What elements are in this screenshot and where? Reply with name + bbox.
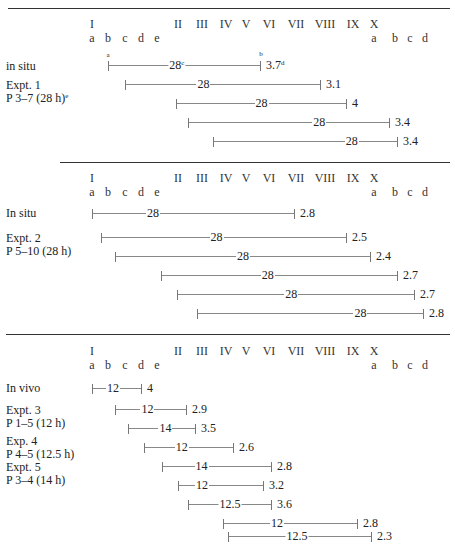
row-label: In vivo	[6, 382, 40, 395]
section-divider	[8, 8, 450, 9]
end-value: 2.7	[420, 288, 435, 301]
duration-bar: 123.2	[178, 485, 264, 486]
column-header-letter: a	[89, 186, 94, 199]
column-header-letter: b	[105, 32, 111, 45]
footnote-mark: d	[281, 59, 285, 67]
duration-value: 14	[158, 422, 172, 435]
duration-value: 28	[261, 269, 275, 282]
column-header-letter: e	[154, 186, 159, 199]
column-header-roman: VII	[288, 345, 305, 358]
duration-bar: 282.7	[161, 275, 398, 276]
footnote-mark: c	[181, 59, 184, 67]
column-header-roman: IX	[347, 345, 360, 358]
end-value: 3.6	[277, 498, 292, 511]
end-value: 2.8	[429, 307, 444, 320]
row-label: in situ	[6, 60, 36, 73]
column-header-letter: d	[138, 186, 144, 199]
column-header-roman: II	[174, 172, 182, 185]
column-header-roman: VIII	[315, 172, 336, 185]
column-header-roman: X	[370, 172, 379, 185]
column-header-letter: c	[407, 32, 412, 45]
row-label: P 3–7 (28 h)e	[6, 92, 68, 105]
row-label: In situ	[6, 207, 36, 220]
duration-bar: 124	[92, 388, 142, 389]
footnote-mark-start: a	[106, 52, 109, 59]
duration-bar: 28c3.7d	[108, 65, 261, 66]
column-header-letter: a	[89, 32, 94, 45]
column-header-roman: VII	[288, 172, 305, 185]
duration-bar: 12.53.6	[188, 504, 272, 505]
duration-bar: 284	[176, 103, 347, 104]
column-header-letter: a	[371, 186, 376, 199]
duration-value: 14	[195, 460, 209, 473]
column-header-letter: e	[154, 32, 159, 45]
column-header-roman: I	[90, 345, 94, 358]
row-label: P 3–4 (14 h)	[6, 474, 65, 487]
column-header-roman: IX	[347, 18, 360, 31]
duration-bar: 283.1	[125, 84, 321, 85]
column-header-letter: d	[138, 32, 144, 45]
duration-value: 28	[210, 231, 224, 244]
column-header-roman: II	[174, 18, 182, 31]
column-header-letter: c	[122, 32, 127, 45]
column-header-letter: b	[392, 32, 398, 45]
column-header-letter: d	[422, 186, 428, 199]
duration-value: 28	[345, 135, 359, 148]
column-header-roman: VI	[263, 172, 276, 185]
column-header-roman: V	[242, 345, 251, 358]
column-header-roman: VIII	[315, 345, 336, 358]
end-value: 2.6	[239, 441, 254, 454]
duration-value: 12	[140, 403, 154, 416]
duration-bar: 142.8	[162, 466, 272, 467]
duration-value: 28	[284, 288, 298, 301]
column-header-letter: b	[105, 359, 111, 372]
column-header-roman: II	[174, 345, 182, 358]
column-header-roman: IV	[220, 18, 233, 31]
column-header-roman: VI	[263, 345, 276, 358]
end-value: 3.4	[403, 135, 418, 148]
duration-value: 12	[195, 479, 209, 492]
end-value: 2.8	[300, 207, 315, 220]
end-value: 3.5	[201, 422, 216, 435]
column-header-letter: d	[422, 32, 428, 45]
duration-bar: 282.4	[115, 256, 371, 257]
duration-value: 12	[270, 517, 284, 530]
duration-value: 28	[196, 78, 210, 91]
column-header-roman: V	[242, 18, 251, 31]
end-value: 4	[147, 382, 153, 395]
column-header-letter: a	[371, 32, 376, 45]
duration-bar: 282.8	[197, 313, 424, 314]
end-value: 3.2	[269, 479, 284, 492]
duration-value: 28	[236, 250, 250, 263]
duration-value: 12.5	[219, 498, 242, 511]
duration-bar: 282.5	[101, 237, 347, 238]
column-header-letter: c	[407, 186, 412, 199]
column-header-roman: X	[370, 345, 379, 358]
end-value: 2.8	[363, 517, 378, 530]
duration-value: 28	[255, 97, 269, 110]
column-header-letter: d	[138, 359, 144, 372]
row-label: P 5–10 (28 h)	[6, 245, 71, 258]
column-header-letter: a	[89, 359, 94, 372]
column-header-roman: III	[196, 172, 208, 185]
column-header-letter: b	[392, 359, 398, 372]
end-value: 2.9	[192, 403, 207, 416]
column-header-letter: c	[122, 359, 127, 372]
column-header-roman: X	[370, 18, 379, 31]
column-header-roman: VII	[288, 18, 305, 31]
column-header-letter: b	[105, 186, 111, 199]
footnote-mark: e	[65, 92, 68, 100]
column-header-roman: V	[242, 172, 251, 185]
duration-bar: 283.4	[213, 141, 398, 142]
column-header-letter: a	[371, 359, 376, 372]
column-header-roman: IV	[220, 345, 233, 358]
column-header-roman: VI	[263, 18, 276, 31]
column-header-roman: I	[90, 18, 94, 31]
column-header-letter: c	[122, 186, 127, 199]
footnote-mark-end: b	[259, 51, 263, 58]
end-value: 3.7d	[266, 59, 285, 72]
end-value: 2.7	[403, 269, 418, 282]
end-value: 3.4	[395, 116, 410, 129]
column-header-roman: I	[90, 172, 94, 185]
duration-value: 12	[175, 441, 189, 454]
